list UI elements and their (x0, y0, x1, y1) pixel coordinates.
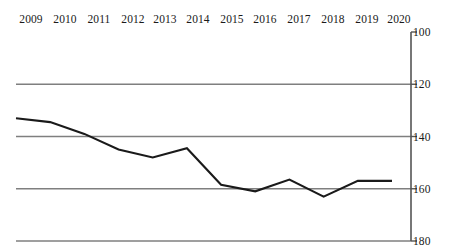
y-tick-label: 120 (413, 77, 431, 91)
y-tick-label: 140 (413, 130, 431, 144)
line-chart: 2009 2010 2011 2012 2013 2014 2015 2016 … (0, 0, 449, 249)
y-axis-tick-labels: 100 120 140 160 180 (413, 0, 449, 249)
y-tick-label: 100 (413, 25, 431, 39)
y-tick-label: 160 (413, 182, 431, 196)
y-tick-label: 180 (413, 234, 431, 248)
y-axis (0, 0, 449, 249)
